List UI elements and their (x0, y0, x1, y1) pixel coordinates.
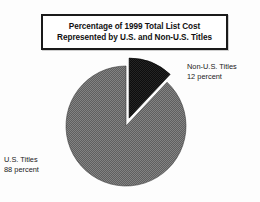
chart-figure: Percentage of 1999 Total List Cost Repre… (0, 0, 260, 202)
pie-chart-svg (0, 0, 260, 202)
label-us-titles: U.S. Titles 88 percent (4, 155, 39, 174)
label-us-titles-value: 88 percent (4, 165, 39, 175)
label-non-us-titles-name: Non-U.S. Titles (187, 62, 237, 72)
label-us-titles-name: U.S. Titles (4, 155, 39, 165)
pie-chart-area (0, 0, 260, 202)
label-non-us-titles: Non-U.S. Titles 12 percent (187, 62, 237, 81)
pie-slice-us-titles (66, 66, 186, 186)
label-non-us-titles-value: 12 percent (187, 72, 237, 82)
